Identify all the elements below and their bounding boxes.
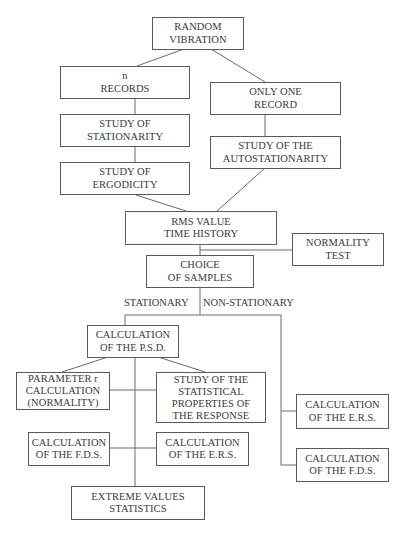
node-calc-ers-mid: CALCULATION OF THE E.R.S. — [156, 432, 249, 466]
node-text: CHOICE — [180, 259, 220, 272]
node-text: PARAMETER r — [28, 373, 98, 385]
node-text: RANDOM — [174, 21, 221, 34]
flowchart: RANDOM VIBRATION n RECORDS ONLY ONE RECO… — [0, 0, 405, 538]
node-text: NORMALITY — [306, 237, 370, 250]
node-choice-of-samples: CHOICE OF SAMPLES — [146, 255, 254, 288]
node-text: THE RESPONSE — [173, 410, 250, 422]
node-normality-test: NORMALITY TEST — [292, 233, 384, 266]
node-text: ERGODICITY — [92, 179, 157, 192]
node-text: OF THE F.D.S. — [36, 449, 103, 462]
branch-label-non-stationary: NON-STATIONARY — [203, 297, 294, 308]
node-rms-value: RMS VALUE TIME HISTORY — [125, 211, 277, 245]
node-text: OF SAMPLES — [168, 272, 232, 285]
node-text: TIME HISTORY — [164, 228, 238, 241]
node-text: AUTOSTATIONARITY — [223, 153, 329, 166]
node-text: OF THE P.S.D. — [100, 342, 166, 355]
edge-random-to-onerecord — [211, 49, 265, 82]
edge-autostationarity-to-rms — [217, 168, 265, 211]
edge-random-to-nrecords — [137, 49, 184, 66]
node-text: EXTREME VALUES — [91, 491, 184, 504]
node-text: n — [122, 70, 127, 83]
node-text: ONLY ONE — [249, 86, 302, 99]
edge-psd-to-statistical — [158, 357, 205, 372]
node-study-stationarity: STUDY OF STATIONARITY — [60, 114, 190, 147]
node-text: STUDY OF THE — [174, 374, 249, 386]
node-text: (NORMALITY) — [27, 397, 98, 409]
node-text: RECORDS — [100, 83, 149, 96]
node-text: OF THE F.D.S. — [309, 465, 376, 478]
node-text: RMS VALUE — [171, 216, 231, 229]
node-text: STATISTICS — [109, 503, 166, 516]
edge-ergodicity-to-rms — [136, 195, 186, 211]
node-calc-fds-left: CALCULATION OF THE F.D.S. — [28, 432, 110, 466]
node-text: STUDY OF — [99, 118, 150, 131]
node-statistical-properties: STUDY OF THE STATISTICAL PROPERTIES OF T… — [156, 372, 266, 423]
node-text: CALCULATION — [96, 329, 171, 342]
node-text: CALCULATION — [305, 399, 380, 412]
node-text: TEST — [325, 250, 350, 263]
node-text: OF THE E.R.S. — [169, 449, 236, 462]
node-study-autostationarity: STUDY OF THE AUTOSTATIONARITY — [210, 136, 341, 169]
node-text: STATISTICAL — [178, 386, 244, 398]
node-text: STUDY OF THE — [238, 140, 313, 153]
node-text: CALCULATION — [165, 437, 240, 450]
node-extreme-values: EXTREME VALUES STATISTICS — [71, 486, 205, 520]
node-only-one-record: ONLY ONE RECORD — [210, 82, 341, 115]
node-text: CALCULATION — [32, 437, 107, 450]
node-parameter-r: PARAMETER r CALCULATION (NORMALITY) — [16, 372, 110, 410]
node-text: RECORD — [254, 99, 297, 112]
node-calc-psd: CALCULATION OF THE P.S.D. — [87, 325, 179, 358]
node-calc-ers-right: CALCULATION OF THE E.R.S. — [296, 394, 389, 429]
node-text: OF THE E.R.S. — [309, 412, 376, 425]
node-text: VIBRATION — [169, 34, 226, 47]
node-random-vibration: RANDOM VIBRATION — [152, 17, 244, 50]
edge-psd-to-parameter — [62, 357, 108, 372]
node-text: CALCULATION — [305, 453, 380, 466]
node-text: PROPERTIES OF — [172, 398, 251, 410]
node-study-ergodicity: STUDY OF ERGODICITY — [60, 162, 190, 195]
node-n-records: n RECORDS — [60, 66, 190, 99]
branch-label-stationary: STATIONARY — [124, 297, 189, 308]
node-calc-fds-right: CALCULATION OF THE F.D.S. — [296, 448, 389, 482]
node-text: STUDY OF — [99, 166, 150, 179]
node-text: STATIONARITY — [87, 131, 163, 144]
node-text: CALCULATION — [26, 385, 101, 397]
